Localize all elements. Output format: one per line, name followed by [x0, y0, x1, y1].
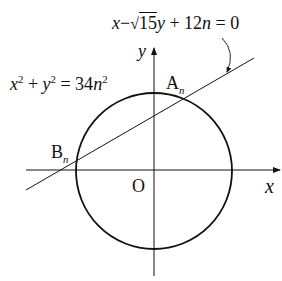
- annotation-pointer: [222, 38, 231, 72]
- origin-label: O: [132, 177, 145, 195]
- circle-equation-label: x2 + y2 = 34n2: [10, 74, 108, 93]
- line-equation-label: x−√15y + 12n = 0: [112, 14, 239, 32]
- point-a-label: An: [166, 74, 184, 95]
- x-axis-label: x: [265, 176, 274, 196]
- y-axis-label: y: [138, 42, 146, 60]
- point-b-label: Bn: [51, 143, 68, 164]
